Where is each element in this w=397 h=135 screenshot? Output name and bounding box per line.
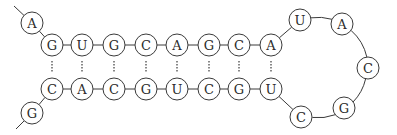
nucleotide-g: G [228,78,250,100]
nucleotide-label: U [266,82,277,97]
loop-arc [353,79,366,102]
loop-arc [351,30,367,57]
nucleotide-g: G [198,34,220,56]
backbone-link [39,97,45,104]
nucleotide-label: G [47,38,57,53]
loop-arc [312,115,335,118]
nucleotide-a: A [331,13,353,35]
nucleotide-a: A [166,34,188,56]
nucleotide-label: C [296,110,306,125]
nucleotide-c: C [357,57,379,79]
nucleotide-g: G [103,34,125,56]
nucleotide-label: G [27,106,37,121]
nucleotide-label: C [109,82,119,97]
nucleotide-label: A [76,82,87,97]
nucleotide-g: G [333,97,355,119]
nucleotide-a: A [71,78,93,100]
base-pair-bonds [52,61,271,73]
nucleotide-label: A [265,38,276,53]
nucleotide-label: U [77,38,88,53]
nucleotide-label: U [172,82,183,97]
nucleotide-label: A [26,16,37,31]
nucleotide-g: G [41,34,63,56]
nucleotide-label: G [339,101,349,116]
nucleotide-label: G [109,38,119,53]
nucleotide-c: C [290,106,312,128]
nucleotide-label: C [141,38,151,53]
nucleotide-g: G [135,78,157,100]
backbone-link [279,27,291,38]
tail-5prime [14,6,24,15]
nucleotide-label: C [47,82,57,97]
nucleotide-c: C [198,78,220,100]
nucleotide-label: G [234,82,244,97]
nucleotide-label: C [234,38,244,53]
tail-3prime [16,121,24,129]
nucleotides: AGUGCAGCAUACGCUGCUGCACG [21,9,379,128]
nucleotide-g: G [21,102,43,124]
backbone-link [279,97,293,110]
nucleotide-label: A [171,38,182,53]
nucleotide-c: C [135,34,157,56]
nucleotide-a: A [21,12,43,34]
nucleotide-c: C [103,78,125,100]
nucleotide-label: C [363,61,373,76]
backbone-link [39,31,44,37]
nucleotide-label: C [204,82,214,97]
nucleotide-a: A [260,34,282,56]
nucleotide-u: U [289,9,311,31]
nucleotide-u: U [260,78,282,100]
nucleotide-u: U [166,78,188,100]
nucleotide-c: C [228,34,250,56]
nucleotide-label: G [141,82,151,97]
nucleotide-label: U [295,13,306,28]
rna-hairpin-diagram: AGUGCAGCAUACGCUGCUGCACG [0,0,397,135]
nucleotide-u: U [71,34,93,56]
nucleotide-c: C [41,78,63,100]
nucleotide-label: G [204,38,214,53]
nucleotide-label: A [336,17,347,32]
loop-arc [311,17,332,19]
